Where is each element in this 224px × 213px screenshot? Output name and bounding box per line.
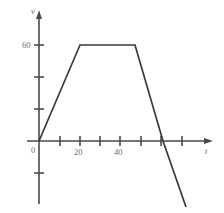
velocity-time-chart: v t 0 60 20 40 <box>0 0 224 213</box>
y-axis-label: v <box>31 6 35 16</box>
x-axis-arrowhead <box>204 138 213 144</box>
x-tick-label-40: 40 <box>114 147 123 157</box>
y-axis-arrowhead <box>36 10 42 19</box>
x-tick-label-20: 20 <box>74 147 83 157</box>
origin-label: 0 <box>31 145 35 155</box>
velocity-curve <box>39 45 186 207</box>
x-axis-label: t <box>205 146 208 156</box>
y-axis <box>36 10 42 204</box>
y-tick-label-60: 60 <box>22 40 31 50</box>
